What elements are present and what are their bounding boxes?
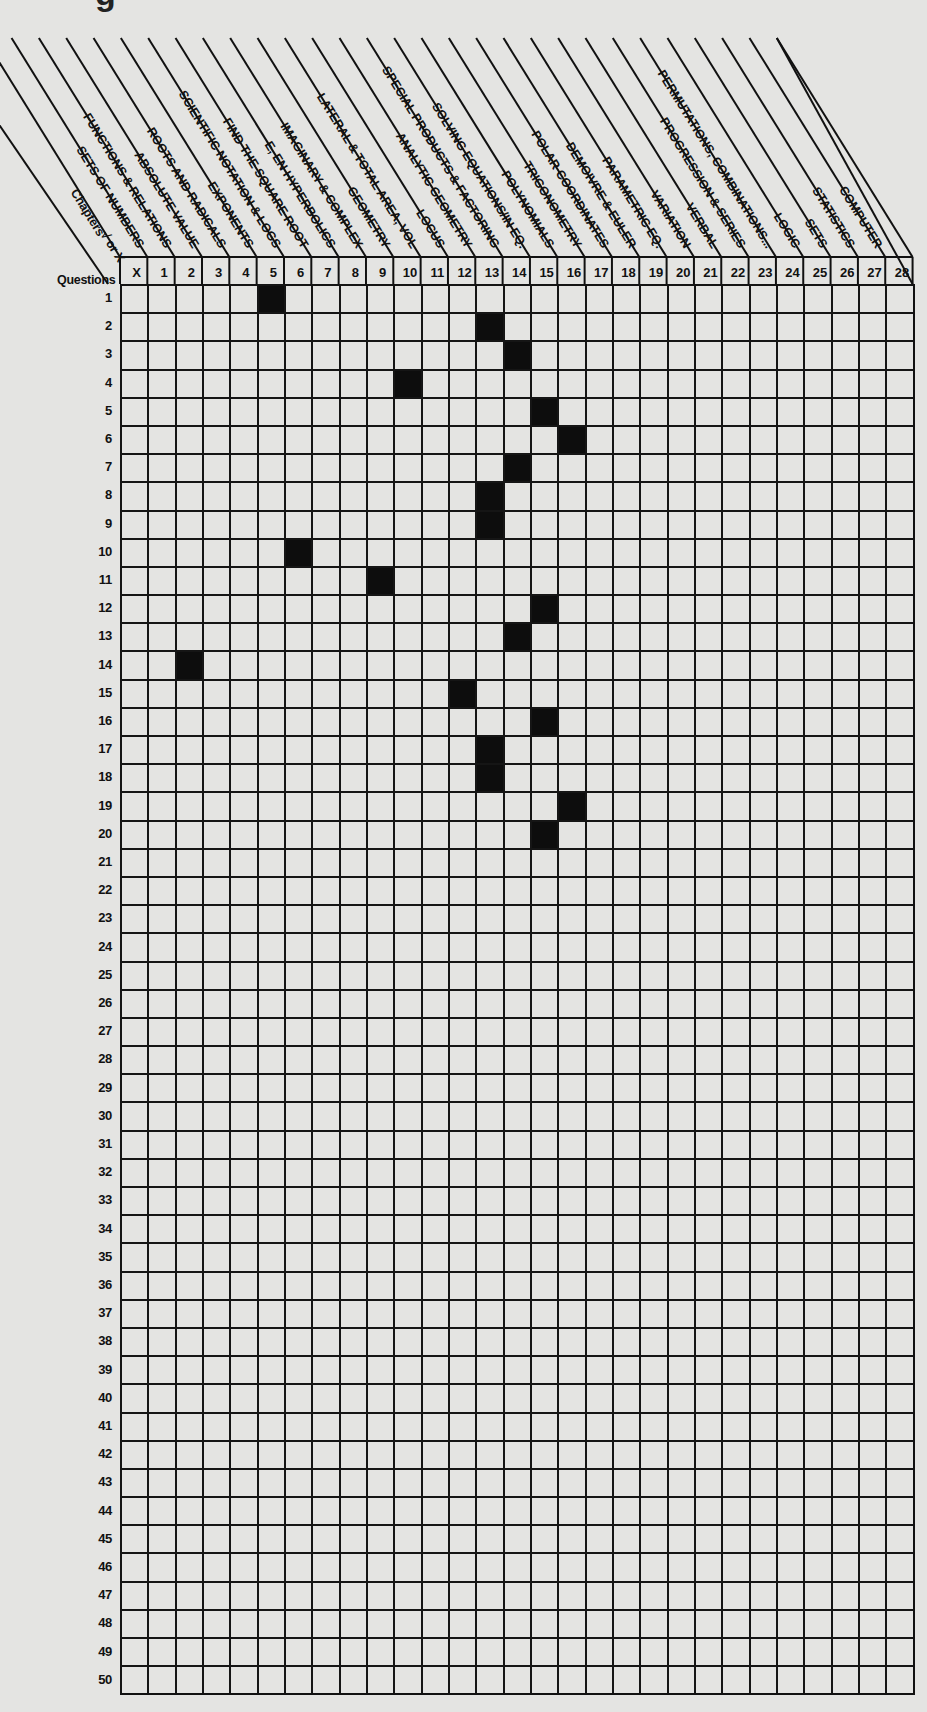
answer-cell[interactable]	[557, 1271, 584, 1299]
answer-cell[interactable]	[612, 820, 639, 848]
answer-cell[interactable]	[831, 1158, 858, 1186]
answer-cell[interactable]	[557, 791, 584, 819]
answer-cell[interactable]	[667, 594, 694, 622]
answer-cell[interactable]	[257, 1214, 284, 1242]
answer-cell[interactable]	[803, 961, 830, 989]
answer-cell[interactable]	[639, 1073, 666, 1101]
answer-cell[interactable]	[803, 1242, 830, 1270]
answer-cell[interactable]	[366, 622, 393, 650]
answer-cell[interactable]	[339, 425, 366, 453]
answer-cell[interactable]	[530, 284, 557, 312]
question-chapter-grid[interactable]	[120, 284, 915, 1695]
answer-cell[interactable]	[503, 1412, 530, 1440]
answer-cell[interactable]	[475, 1271, 502, 1299]
answer-cell[interactable]	[803, 650, 830, 678]
answer-cell[interactable]	[749, 1045, 776, 1073]
mark-cell[interactable]	[120, 1552, 147, 1580]
answer-cell[interactable]	[229, 1552, 256, 1580]
answer-cell[interactable]	[202, 791, 229, 819]
answer-cell[interactable]	[147, 1101, 174, 1129]
answer-cell[interactable]	[885, 763, 912, 791]
answer-cell[interactable]	[776, 1581, 803, 1609]
answer-cell[interactable]	[639, 1214, 666, 1242]
answer-cell[interactable]	[339, 1637, 366, 1665]
answer-cell[interactable]	[229, 312, 256, 340]
answer-cell[interactable]	[749, 510, 776, 538]
answer-cell[interactable]	[612, 1581, 639, 1609]
answer-cell[interactable]	[639, 538, 666, 566]
answer-cell[interactable]	[776, 1440, 803, 1468]
answer-cell[interactable]	[421, 1130, 448, 1158]
answer-cell[interactable]	[585, 1355, 612, 1383]
answer-cell[interactable]	[776, 538, 803, 566]
answer-cell[interactable]	[721, 538, 748, 566]
answer-cell[interactable]	[147, 284, 174, 312]
answer-cell[interactable]	[229, 1637, 256, 1665]
answer-cell[interactable]	[257, 679, 284, 707]
answer-cell[interactable]	[858, 1158, 885, 1186]
answer-cell[interactable]	[475, 369, 502, 397]
answer-cell[interactable]	[421, 1468, 448, 1496]
answer-cell[interactable]	[721, 1468, 748, 1496]
answer-cell[interactable]	[557, 1017, 584, 1045]
answer-cell[interactable]	[257, 1496, 284, 1524]
answer-cell[interactable]	[421, 397, 448, 425]
answer-cell[interactable]	[667, 904, 694, 932]
answer-cell[interactable]	[721, 1242, 748, 1270]
answer-cell[interactable]	[421, 312, 448, 340]
answer-cell[interactable]	[147, 481, 174, 509]
answer-cell[interactable]	[612, 284, 639, 312]
answer-cell[interactable]	[803, 1496, 830, 1524]
answer-cell[interactable]	[311, 1242, 338, 1270]
answer-cell[interactable]	[530, 312, 557, 340]
answer-cell[interactable]	[557, 1214, 584, 1242]
answer-cell[interactable]	[475, 989, 502, 1017]
mark-cell[interactable]	[120, 1383, 147, 1411]
answer-cell[interactable]	[339, 538, 366, 566]
answer-cell[interactable]	[448, 876, 475, 904]
answer-cell[interactable]	[175, 848, 202, 876]
answer-cell[interactable]	[202, 1242, 229, 1270]
answer-cell[interactable]	[667, 1158, 694, 1186]
answer-cell[interactable]	[694, 1440, 721, 1468]
answer-cell[interactable]	[175, 622, 202, 650]
answer-cell[interactable]	[639, 1101, 666, 1129]
answer-cell[interactable]	[366, 1609, 393, 1637]
answer-cell[interactable]	[284, 1355, 311, 1383]
answer-cell[interactable]	[585, 312, 612, 340]
answer-cell[interactable]	[885, 1327, 912, 1355]
answer-cell[interactable]	[776, 1383, 803, 1411]
answer-cell[interactable]	[366, 989, 393, 1017]
answer-cell[interactable]	[557, 1581, 584, 1609]
answer-cell[interactable]	[147, 1327, 174, 1355]
answer-cell[interactable]	[667, 1581, 694, 1609]
answer-cell[interactable]	[694, 1524, 721, 1552]
answer-cell[interactable]	[147, 1158, 174, 1186]
answer-cell[interactable]	[175, 1637, 202, 1665]
answer-cell[interactable]	[831, 1355, 858, 1383]
answer-cell[interactable]	[366, 397, 393, 425]
answer-cell[interactable]	[257, 594, 284, 622]
answer-cell[interactable]	[694, 1242, 721, 1270]
answer-cell[interactable]	[557, 340, 584, 368]
answer-cell[interactable]	[229, 425, 256, 453]
answer-cell[interactable]	[475, 1101, 502, 1129]
answer-cell[interactable]	[475, 904, 502, 932]
answer-cell[interactable]	[202, 1412, 229, 1440]
answer-cell[interactable]	[585, 1045, 612, 1073]
answer-cell[interactable]	[776, 1045, 803, 1073]
answer-cell[interactable]	[257, 312, 284, 340]
answer-cell[interactable]	[421, 1665, 448, 1693]
mark-cell[interactable]	[120, 820, 147, 848]
answer-cell[interactable]	[284, 820, 311, 848]
answer-cell[interactable]	[339, 1524, 366, 1552]
answer-cell[interactable]	[503, 1073, 530, 1101]
answer-cell[interactable]	[448, 679, 475, 707]
answer-cell[interactable]	[284, 1073, 311, 1101]
answer-cell[interactable]	[749, 679, 776, 707]
answer-cell[interactable]	[421, 679, 448, 707]
answer-cell[interactable]	[858, 1299, 885, 1327]
answer-cell[interactable]	[257, 453, 284, 481]
answer-cell[interactable]	[339, 481, 366, 509]
answer-cell[interactable]	[858, 1383, 885, 1411]
